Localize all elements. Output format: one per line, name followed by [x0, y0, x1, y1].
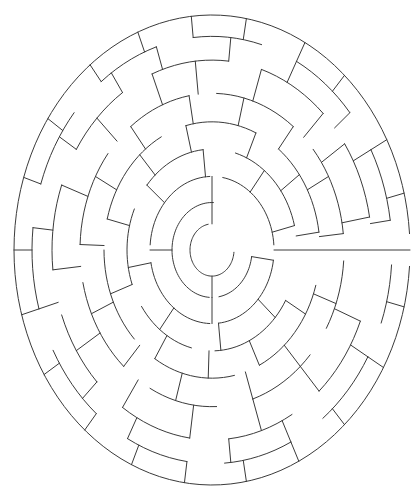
- circular-maze-figure: [0, 0, 419, 496]
- maze-background: [0, 0, 419, 496]
